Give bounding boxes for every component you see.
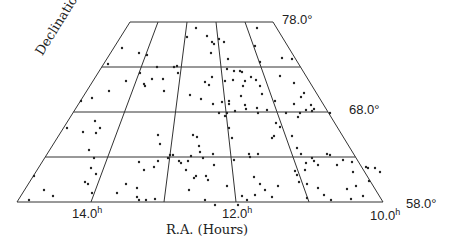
data-point xyxy=(279,126,281,128)
data-point xyxy=(28,199,30,201)
data-point xyxy=(226,68,228,70)
data-point xyxy=(228,103,230,105)
data-point xyxy=(214,204,216,206)
dec-58-value: 58.0 xyxy=(406,196,431,211)
data-point xyxy=(241,71,243,73)
data-point xyxy=(91,97,93,99)
data-point xyxy=(259,85,261,87)
data-point xyxy=(304,169,306,171)
data-point xyxy=(125,183,127,185)
data-point xyxy=(259,183,261,185)
x-axis-label: R.A. (Hours) xyxy=(166,222,248,237)
data-point xyxy=(172,154,174,156)
data-point xyxy=(294,170,296,172)
data-point xyxy=(234,110,236,112)
data-point xyxy=(271,137,273,139)
data-point xyxy=(82,131,84,133)
data-point xyxy=(121,47,123,49)
data-point xyxy=(313,108,315,110)
data-point xyxy=(208,84,210,86)
data-point xyxy=(299,112,301,114)
data-point xyxy=(256,27,258,29)
data-point xyxy=(279,75,281,77)
data-point xyxy=(296,147,298,149)
data-point xyxy=(305,109,307,111)
data-point xyxy=(241,195,243,197)
hour-superscript: h xyxy=(97,205,102,215)
data-point xyxy=(204,199,206,201)
data-point xyxy=(271,196,273,198)
data-point xyxy=(293,103,295,105)
data-point xyxy=(199,151,201,153)
data-point xyxy=(200,98,202,100)
data-point xyxy=(367,167,369,169)
data-point xyxy=(187,160,189,162)
data-point xyxy=(138,161,140,163)
data-point xyxy=(346,188,348,190)
data-point xyxy=(224,115,226,117)
data-point xyxy=(306,183,308,185)
data-point xyxy=(374,167,376,169)
data-point xyxy=(84,181,86,183)
data-point xyxy=(296,174,298,176)
data-point xyxy=(274,100,276,102)
data-point xyxy=(107,63,109,65)
data-point xyxy=(303,92,305,94)
data-point xyxy=(189,94,191,96)
data-point xyxy=(146,54,148,56)
data-point xyxy=(310,104,312,106)
data-point xyxy=(88,149,90,151)
data-point xyxy=(317,187,319,189)
data-point xyxy=(188,189,190,191)
data-point xyxy=(298,181,300,183)
data-point xyxy=(264,189,266,191)
data-point xyxy=(281,57,283,59)
data-point xyxy=(169,154,171,156)
data-point xyxy=(125,80,127,82)
degree-symbol: ° xyxy=(374,102,379,117)
data-point xyxy=(362,195,364,197)
data-point xyxy=(157,160,159,162)
data-point xyxy=(257,112,259,114)
data-point xyxy=(218,112,220,114)
data-point xyxy=(163,90,165,92)
data-point xyxy=(266,109,268,111)
data-point xyxy=(233,70,235,72)
data-point xyxy=(90,167,92,169)
dec-label-68: 68.0° xyxy=(349,102,380,117)
data-point xyxy=(350,198,352,200)
data-point xyxy=(293,82,295,84)
data-point xyxy=(242,85,244,87)
data-point xyxy=(213,164,215,166)
data-point xyxy=(139,72,141,74)
data-point xyxy=(185,169,187,171)
data-point xyxy=(211,41,213,43)
data-point xyxy=(250,76,252,78)
data-point xyxy=(313,160,315,162)
data-point xyxy=(143,169,145,171)
data-point xyxy=(95,173,97,175)
data-point xyxy=(212,103,214,105)
data-point xyxy=(162,78,164,80)
data-point xyxy=(145,199,147,201)
data-point xyxy=(245,108,247,110)
data-point xyxy=(210,52,212,54)
data-point xyxy=(329,154,331,156)
data-point xyxy=(136,196,138,198)
data-point xyxy=(156,66,158,68)
data-point xyxy=(136,187,138,189)
data-point xyxy=(254,194,256,196)
data-point xyxy=(379,171,381,173)
data-point xyxy=(108,90,110,92)
data-point xyxy=(186,36,188,38)
dec-label-78: 78.0° xyxy=(282,12,313,27)
data-point xyxy=(212,153,214,155)
data-point xyxy=(291,58,293,60)
data-point xyxy=(91,192,93,194)
ra-12-value: 12.0 xyxy=(222,206,247,221)
data-point xyxy=(195,175,197,177)
dec-78-value: 78.0 xyxy=(282,12,307,27)
data-point xyxy=(196,136,198,138)
data-point xyxy=(177,72,179,74)
grid-lines xyxy=(17,22,383,202)
